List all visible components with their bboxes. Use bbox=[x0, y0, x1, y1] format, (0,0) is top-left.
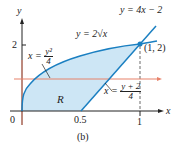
label-line-eq: y = 4x − 2 bbox=[120, 5, 162, 15]
diagram-canvas bbox=[0, 0, 175, 146]
y-tick-label-2: 2 bbox=[12, 40, 17, 50]
y-axis-label: y bbox=[17, 6, 21, 16]
label-right-bound: x = y + 24 bbox=[104, 82, 141, 101]
label-left-bound: x = y²4 bbox=[28, 47, 53, 66]
label-intersection: (1, 2) bbox=[144, 43, 166, 53]
y-axis-arrow-icon bbox=[20, 18, 24, 24]
x-tick-label-1: 1 bbox=[137, 117, 142, 127]
figure-caption: (b) bbox=[77, 132, 89, 142]
x-tick-label-0.5: 0.5 bbox=[74, 115, 87, 125]
x-tick-label-0: 0 bbox=[10, 115, 15, 125]
region-label: R bbox=[57, 94, 64, 105]
intersection-dot bbox=[138, 42, 143, 47]
x-axis-label: x bbox=[166, 106, 170, 116]
label-sqrt-eq: y = 2√x bbox=[76, 29, 107, 39]
x-axis-arrow-icon bbox=[158, 109, 164, 113]
